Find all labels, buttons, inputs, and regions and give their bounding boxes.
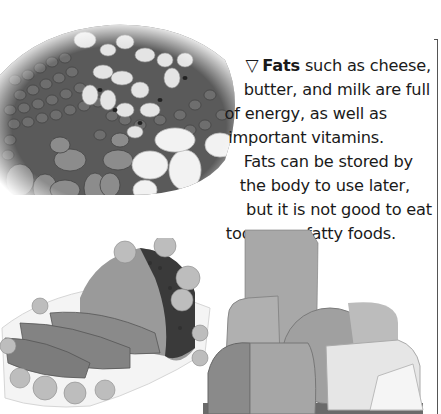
book-page: ▽Fats such as cheese, butter, and milk a… — [0, 0, 441, 414]
caption-line-6: the body to use later, — [170, 174, 432, 198]
page-frame-border — [437, 39, 438, 414]
caption-line-5: Fats can be stored by — [170, 150, 432, 174]
triangle-marker-icon: ▽ — [245, 55, 258, 75]
fats-caption: ▽Fats such as cheese, butter, and milk a… — [170, 53, 432, 246]
caption-line-2: butter, and milk are full — [170, 78, 432, 102]
cheese-image — [198, 228, 426, 414]
caption-line-1: ▽Fats such as cheese, — [170, 53, 432, 78]
ham-image — [0, 238, 212, 414]
caption-line-7: but it is not good to eat — [170, 198, 432, 222]
caption-bold-term: Fats — [262, 56, 300, 75]
caption-line-3: of energy, as well as — [170, 102, 432, 126]
caption-line-4: important vitamins. — [170, 126, 432, 150]
